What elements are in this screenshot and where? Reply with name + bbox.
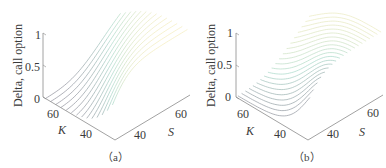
s-tick-40: 40: [134, 129, 146, 141]
figure-caption-b: （b）: [293, 148, 321, 164]
z-tick-0-5: 0.5: [25, 61, 40, 73]
s-tick-60: 60: [175, 108, 187, 120]
z-tick-0: 0: [225, 91, 231, 103]
s-axis-label: S: [168, 126, 174, 138]
surface-line: [287, 37, 359, 49]
surface-line: [268, 56, 340, 74]
z-axis-label: Delta, call option: [11, 24, 26, 107]
s-tick-40: 40: [327, 128, 339, 140]
chart-panel-a: Delta, call option 1 0.5 0 60 40 K 40 60…: [0, 0, 193, 168]
surface-line: [260, 64, 332, 84]
figure-caption-a: （a）: [102, 148, 129, 164]
k-tick-40: 40: [80, 128, 92, 140]
s-axis-label: S: [359, 126, 365, 138]
delta-surface-plot-a: [0, 0, 193, 168]
z-tick-1: 1: [35, 29, 41, 41]
z-tick-0: 0: [34, 93, 40, 105]
k-axis-label: K: [58, 124, 66, 136]
k-tick-40: 40: [274, 128, 286, 140]
k-tick-60: 60: [237, 108, 249, 120]
chart-panel-b: Delta, call option 1 0.5 0 60 40 K 40 60…: [193, 0, 386, 168]
surface-line: [275, 49, 347, 64]
k-axis-label: K: [246, 125, 254, 137]
z-tick-0-5: 0.5: [217, 59, 232, 71]
delta-surface-plot-b: [193, 0, 386, 168]
k-tick-60: 60: [47, 108, 59, 120]
s-tick-60: 60: [367, 107, 379, 119]
z-tick-1: 1: [227, 27, 233, 39]
